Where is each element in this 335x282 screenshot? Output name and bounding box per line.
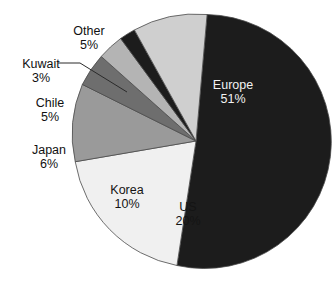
slice-label-chile: Chile 5% (22, 96, 78, 124)
slice-label-korea-name: Korea (100, 183, 154, 197)
slice-label-japan: Japan 6% (20, 143, 78, 171)
slice-label-korea: Korea 10% (100, 183, 154, 211)
slice-label-europe-name: Europe (200, 78, 266, 92)
slice-label-us-value: 20% (164, 214, 212, 228)
pie-chart-svg (0, 0, 335, 282)
slice-label-europe-value: 51% (200, 92, 266, 106)
slice-label-other-value: 5% (62, 38, 116, 52)
slice-label-japan-name: Japan (20, 143, 78, 157)
pie-chart: Other 5% Kuwait 3% Chile 5% Japan 6% Eur… (0, 0, 335, 282)
slice-label-japan-value: 6% (20, 157, 78, 171)
slice-label-us-name: US (164, 200, 212, 214)
slice-label-europe: Europe 51% (200, 78, 266, 106)
slice-label-kuwait-value: 3% (10, 71, 72, 85)
pie-slices (72, 14, 331, 268)
slice-label-other-name: Other (62, 24, 116, 38)
slice-label-other: Other 5% (62, 24, 116, 52)
slice-label-chile-name: Chile (22, 96, 78, 110)
slice-label-chile-value: 5% (22, 110, 78, 124)
slice-label-kuwait-name: Kuwait (10, 57, 72, 71)
slice-label-us: US 20% (164, 200, 212, 228)
slice-label-korea-value: 10% (100, 197, 154, 211)
slice-label-kuwait: Kuwait 3% (10, 57, 72, 85)
